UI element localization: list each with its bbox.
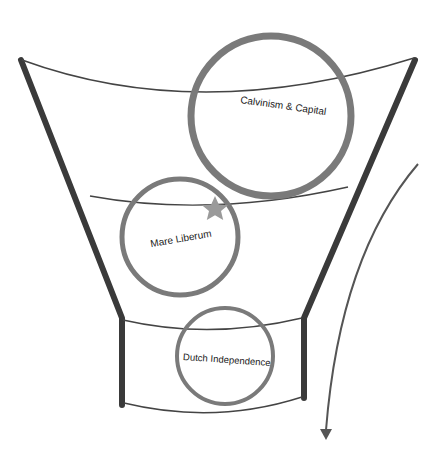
arrow-head-icon [320,429,332,440]
funnel-neck-rim [123,318,302,330]
funnel-bottom-rim [124,397,302,413]
circle-calvinism-capital [191,36,351,196]
funnel-diagram [0,0,439,452]
flow-arrow-curve [326,164,418,430]
funnel-left-wall [21,60,122,405]
funnel-top-rim [22,58,414,92]
